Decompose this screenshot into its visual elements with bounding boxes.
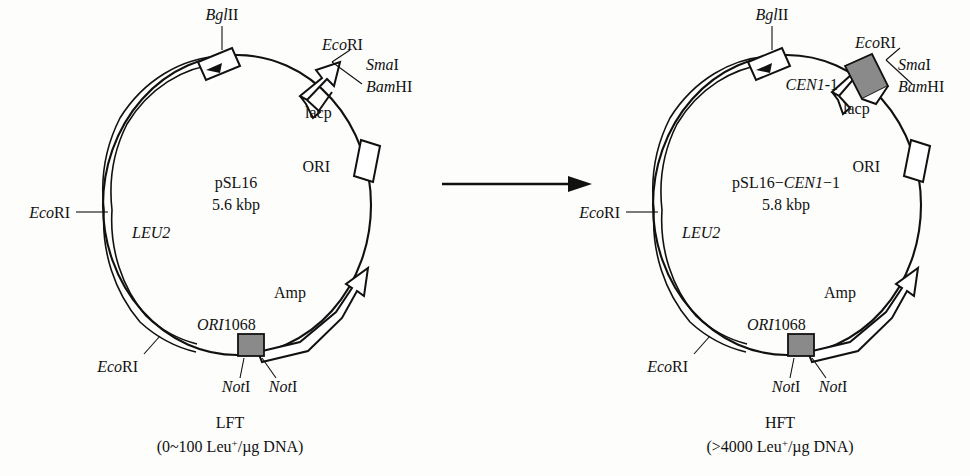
ecori-bottom-leader-right [694,336,710,354]
feature-label-amp-right: Amp [824,284,856,302]
site-label-noti-1-left: NotI [221,378,250,395]
site-label-ecori-right: EcoRI [854,34,896,51]
noti-1-leader-left [240,358,244,378]
feature-label-ori-left: ORI [302,158,330,175]
site-label-smai-left: SmaI [366,56,399,73]
caption-detail-left: (0~100 Leu+/µg DNA) [157,437,304,456]
site-label-noti-1-right: NotI [771,378,800,395]
feature-label-ori1068-left: ORI1068 [197,316,256,333]
feature-label-lacp-right: lacp [843,100,870,118]
bglii-feature-box-left [198,48,240,80]
site-label-noti-2-left: NotI [268,378,297,395]
site-label-noti-2-right: NotI [818,378,847,395]
site-label-bglii-right: BglII [756,6,789,24]
amp-arrow-right [808,268,918,362]
site-label-bamhi-left: BamHI [366,78,412,95]
site-label-bglii-left: BglII [206,6,239,24]
amp-arrow-left [258,268,368,362]
caption-title-right: HFT [765,414,795,431]
plasmid-size-left: 5.6 kbp [212,196,260,214]
plasmid-left: BglII EcoRI SmaI BamHI lacp ORI Amp LEU2… [28,6,412,456]
leu2-inner-arc-a [103,56,222,352]
feature-label-leu2-left: LEU2 [131,224,170,241]
plasmid-size-right: 5.8 kbp [762,196,810,214]
ori1068-shaded-box-right [788,334,814,356]
ori-box-right [904,140,930,182]
feature-label-ori-right: ORI [852,158,880,175]
feature-label-ori1068-right: ORI1068 [747,316,806,333]
plasmid-figure: BglII EcoRI SmaI BamHI lacp ORI Amp LEU2… [0,0,970,476]
lacp-arrow-left [300,62,340,100]
plasmid-name-left: pSL16 [215,174,258,192]
feature-label-amp-left: Amp [274,284,306,302]
arrow-head [568,176,592,192]
site-label-bamhi-right: BamHI [898,78,944,95]
caption-title-left: LFT [216,414,245,431]
bglii-feature-box-right [748,48,790,80]
site-label-ecori-bottom-right: EcoRI [646,358,688,375]
plasmid-diagram-canvas: BglII EcoRI SmaI BamHI lacp ORI Amp LEU2… [0,0,970,476]
insert-label-cen1-1-right: CEN1-1 [786,76,838,93]
site-label-ecori-left: EcoRI [321,36,363,53]
leu2-inner-arc-a-right [653,56,772,352]
plasmid-right: BglII EcoRI SmaI BamHI CEN1-1 lacp ORI A… [578,6,944,456]
feature-label-leu2-right: LEU2 [681,224,720,241]
ori1068-shaded-box-left [238,334,264,356]
site-label-ecori-bottom-left: EcoRI [96,358,138,375]
noti-1-leader-right [790,358,794,378]
caption-detail-right: (>4000 Leu+/µg DNA) [706,437,853,456]
ecori-bottom-leader-left [144,336,160,354]
site-label-ecori-left-side-right: EcoRI [578,204,620,221]
ori-box-left [354,140,380,182]
plasmid-name-right: pSL16−CEN1−1 [732,174,840,192]
site-label-ecori-left-side: EcoRI [28,204,70,221]
transformation-arrow [442,176,592,192]
feature-label-lacp-left: lacp [305,104,332,122]
site-label-smai-right: SmaI [898,56,931,73]
